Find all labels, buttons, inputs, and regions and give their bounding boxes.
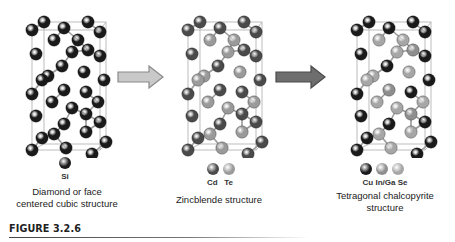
atom (361, 74, 373, 86)
atoms (182, 16, 268, 158)
atom (204, 34, 216, 46)
caption-zincblende: Zincblende structure (154, 194, 284, 206)
atom (192, 74, 204, 86)
atom (250, 26, 262, 38)
atom (48, 34, 60, 46)
element-symbols-zincblende: Cd Te (200, 178, 240, 187)
element-symbols-chalcopyrite: Cu In/Ga Se (355, 178, 415, 187)
atom (236, 86, 248, 98)
atom (36, 74, 48, 86)
atom (238, 44, 250, 56)
atom (383, 22, 395, 34)
atom (361, 132, 373, 144)
legend-chalcopyrite (360, 163, 404, 175)
chalcopyrite-lattice-diagram (347, 12, 439, 158)
caption-chalcopyrite: Tetragonal chalcopyrite structure (316, 190, 454, 214)
atom (214, 118, 226, 130)
atom (26, 88, 38, 100)
atom (405, 126, 417, 138)
diamond-lattice-diagram (22, 12, 114, 158)
figure-label: FIGURE 3.2.6 (9, 222, 81, 234)
atom (30, 48, 42, 60)
legend-zincblende (207, 163, 235, 175)
atom (26, 144, 38, 156)
atom (222, 46, 234, 58)
atom (186, 110, 198, 122)
atom (100, 136, 112, 148)
atom (351, 88, 363, 100)
atom (351, 144, 363, 156)
atom (250, 116, 262, 128)
atom (194, 16, 206, 28)
atom (236, 108, 248, 120)
atom (212, 60, 224, 72)
atom (182, 24, 194, 36)
legend-diamond (59, 157, 71, 169)
atom (36, 132, 48, 144)
atom (373, 34, 385, 46)
panel-zincblende: Cd Te Zincblende structure (150, 0, 290, 220)
zincblende-lattice-diagram (178, 12, 270, 158)
atom (236, 126, 248, 138)
atom (94, 26, 106, 38)
caption-line: structure (316, 202, 454, 214)
atom (419, 50, 431, 62)
atom (425, 136, 437, 148)
atom (186, 48, 198, 60)
atom (256, 136, 268, 148)
atom (94, 50, 106, 62)
atom (385, 142, 397, 154)
atom (405, 108, 417, 120)
legend-atom-in-ga (376, 163, 388, 175)
caption-line: Tetragonal chalcopyrite (316, 190, 454, 202)
atom (80, 108, 92, 120)
atom (30, 110, 42, 122)
atom (355, 48, 367, 60)
atom (405, 86, 417, 98)
legend-atom-se (392, 163, 404, 175)
atom (204, 128, 216, 140)
atom (80, 86, 92, 98)
atom (58, 118, 70, 130)
atom (407, 16, 419, 28)
atom (66, 102, 78, 114)
panel-chalcopyrite: Cu In/Ga Se Tetragonal chalcopyrite stru… (310, 0, 455, 220)
caption-line: Diamond or face (2, 186, 132, 198)
atom (182, 144, 194, 156)
atom (82, 44, 94, 56)
atom (423, 74, 435, 86)
caption-line: centered cubic structure (2, 198, 132, 210)
legend-atom-cd (207, 163, 219, 175)
atom (94, 116, 106, 128)
atom (234, 66, 246, 78)
element-symbols-diamond: Si (55, 172, 75, 181)
atom (391, 46, 403, 58)
atom (192, 132, 204, 144)
atom (202, 96, 214, 108)
atom (250, 50, 262, 62)
atom (383, 118, 395, 130)
figure-divider (9, 237, 309, 238)
atom (78, 66, 90, 78)
atom (216, 142, 228, 154)
atom (46, 96, 58, 108)
atom (182, 88, 194, 100)
atom (58, 22, 70, 34)
atom (80, 126, 92, 138)
atom (371, 96, 383, 108)
legend-atom-si (59, 157, 71, 169)
atom (26, 24, 38, 36)
atom (214, 22, 226, 34)
atom (48, 128, 60, 140)
atom (254, 74, 266, 86)
atom (60, 142, 72, 154)
atom (381, 60, 393, 72)
atom (403, 66, 415, 78)
atom (351, 24, 363, 36)
caption-line: Zincblende structure (154, 194, 284, 206)
atom (397, 34, 409, 46)
legend-atom-te (223, 163, 235, 175)
atom (391, 102, 403, 114)
atom (92, 96, 104, 108)
atom (363, 16, 375, 28)
